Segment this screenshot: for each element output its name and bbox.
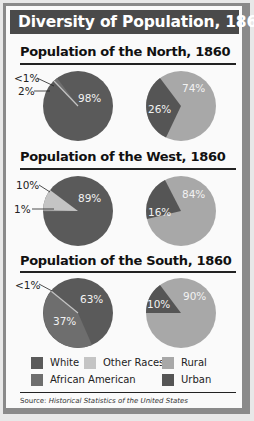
legend-swatch-white (31, 357, 43, 369)
label-south-rural: 90% (183, 290, 206, 302)
label-north-african-american: 2% (18, 85, 35, 97)
section-title-west: Population of the West, 1860 (20, 149, 235, 164)
label-south-urban: 10% (147, 298, 170, 310)
legend-swatch-rural (162, 357, 174, 369)
legend-label-urban: Urban (181, 374, 211, 385)
label-north-white: 98% (78, 92, 101, 104)
label-west-white: 89% (78, 192, 101, 204)
section-title-north: Population of the North, 1860 (20, 44, 235, 59)
pie-south-urban (145, 277, 217, 349)
divider (20, 392, 236, 393)
legend-swatch-urban (162, 374, 174, 386)
legend-swatch-african-american (31, 374, 43, 386)
label-west-other: 10% (16, 179, 39, 191)
label-west-african-american: 1% (14, 203, 31, 215)
legend-label-white: White (50, 357, 79, 368)
label-south-other: <1% (15, 279, 40, 291)
label-north-rural: 74% (182, 82, 205, 94)
label-south-white: 63% (80, 293, 103, 305)
legend-label-rural: Rural (181, 357, 207, 368)
label-north-other: <1% (14, 72, 39, 84)
label-north-urban: 26% (148, 103, 171, 115)
divider (20, 168, 236, 170)
divider (20, 63, 236, 65)
legend-label-african-american: African American (50, 374, 136, 385)
label-west-urban: 16% (148, 206, 171, 218)
label-west-rural: 84% (182, 188, 205, 200)
legend-swatch-other-races (84, 357, 96, 369)
source-text: Historical Statistics of the United Stat… (49, 397, 188, 405)
page-title: Diversity of Population, 1860 (10, 10, 239, 34)
legend-label-other-races: Other Races (103, 357, 164, 368)
divider (20, 271, 236, 273)
source-label: Source: (20, 397, 46, 405)
label-south-african-american: 37% (53, 315, 76, 327)
source-note: Source: Historical Statistics of the Uni… (20, 397, 188, 405)
section-title-south: Population of the South, 1860 (20, 253, 235, 268)
